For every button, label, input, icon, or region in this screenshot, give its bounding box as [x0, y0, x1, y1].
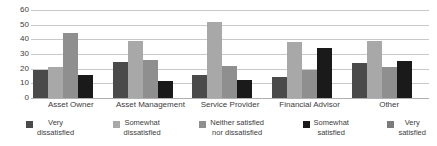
legend-item[interactable]: Neither satisfied nor dissatisfied	[199, 118, 264, 137]
x-axis-labels: Asset OwnerAsset ManagementService Provi…	[31, 99, 429, 112]
legend-swatch-icon	[303, 121, 310, 128]
bar	[397, 61, 412, 98]
bar	[287, 42, 302, 98]
y-axis-tick-label: 50	[3, 21, 29, 29]
legend-label: Somewhat dissatisfied	[124, 118, 161, 137]
x-axis-tick-label: Service Provider	[190, 99, 270, 112]
bar-group	[190, 10, 270, 98]
legend-label: Very satisfied	[398, 118, 426, 137]
y-axis-tick-label: 30	[3, 50, 29, 58]
legend-item[interactable]: Very dissatisfied	[26, 118, 74, 137]
legend-label: Somewhat satisfied	[314, 118, 349, 137]
bar	[367, 41, 382, 98]
chart-legend: Very dissatisfiedSomewhat dissatisfiedNe…	[26, 118, 426, 144]
legend-label: Neither satisfied nor dissatisfied	[210, 118, 264, 137]
x-axis-tick-label: Asset Management	[111, 99, 191, 112]
bar	[317, 48, 332, 98]
bar	[192, 75, 207, 98]
bar	[302, 70, 317, 98]
bar	[63, 33, 78, 98]
y-axis-tick-label: 60	[3, 6, 29, 14]
bar	[143, 60, 158, 98]
legend-label: Very dissatisfied	[37, 118, 74, 137]
legend-swatch-icon	[113, 121, 120, 128]
bar	[352, 63, 367, 98]
bar	[128, 41, 143, 98]
bar	[158, 81, 173, 98]
y-axis-tick-label: 40	[3, 35, 29, 43]
legend-swatch-icon	[199, 121, 206, 128]
legend-swatch-icon	[26, 121, 33, 128]
legend-item[interactable]: Somewhat dissatisfied	[113, 118, 161, 137]
legend-item[interactable]: Somewhat satisfied	[303, 118, 349, 137]
bar-group	[349, 10, 429, 98]
bar	[48, 67, 63, 98]
bar	[272, 77, 287, 98]
y-axis: 6050403020100	[0, 10, 29, 98]
bar	[113, 62, 128, 98]
bar	[33, 70, 48, 98]
plot-area	[31, 10, 429, 98]
bar	[222, 66, 237, 98]
x-axis-tick-label: Financial Advisor	[270, 99, 350, 112]
x-axis-tick-label: Asset Owner	[31, 99, 111, 112]
bar-groups	[31, 10, 429, 98]
legend-swatch-icon	[387, 121, 394, 128]
bar-group	[31, 10, 111, 98]
y-axis-tick-label: 10	[3, 79, 29, 87]
y-axis-tick-label: 0	[3, 94, 29, 102]
bar	[207, 22, 222, 98]
legend-item[interactable]: Very satisfied	[387, 118, 426, 137]
y-axis-tick-label: 20	[3, 65, 29, 73]
x-axis-tick-label: Other	[349, 99, 429, 112]
bar	[237, 80, 252, 98]
bar-group	[270, 10, 350, 98]
bar	[78, 75, 93, 98]
bar	[382, 67, 397, 98]
bar-group	[111, 10, 191, 98]
bar-chart: 6050403020100 Asset OwnerAsset Managemen…	[0, 0, 437, 146]
